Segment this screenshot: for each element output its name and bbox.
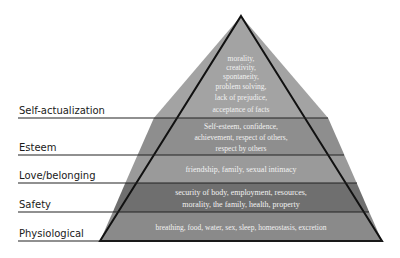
svg-text:lack of prejudice,: lack of prejudice, — [215, 93, 267, 102]
svg-text:acceptance of facts: acceptance of facts — [212, 105, 269, 114]
svg-text:Self-esteem, confidence,: Self-esteem, confidence, — [204, 122, 278, 131]
svg-text:respect by others: respect by others — [216, 144, 267, 153]
label-safety: Safety — [19, 199, 51, 210]
svg-text:spontaneity,: spontaneity, — [223, 72, 259, 81]
maslow-pyramid: Self-actualization Esteem Love/belonging… — [0, 0, 400, 258]
svg-text:problem solving,: problem solving, — [216, 82, 267, 91]
svg-text:morality, the family, health,: morality, the family, health, property — [182, 200, 299, 209]
label-self-actualization: Self-actualization — [19, 105, 105, 116]
svg-text:breathing, food, water, sex, s: breathing, food, water, sex, sleep, home… — [156, 223, 327, 232]
label-physiological: Physiological — [19, 228, 84, 239]
svg-text:friendship, family, sexual int: friendship, family, sexual intimacy — [185, 165, 296, 174]
label-love-belonging: Love/belonging — [19, 170, 96, 181]
svg-text:creativity,: creativity, — [226, 63, 256, 72]
label-esteem: Esteem — [19, 142, 57, 153]
svg-text:security of body, employment,: security of body, employment, resources, — [175, 188, 307, 197]
svg-text:achievement, respect of others: achievement, respect of others, — [194, 133, 287, 142]
text-love-belonging: friendship, family, sexual intimacy — [185, 165, 296, 174]
svg-text:morality,: morality, — [228, 54, 255, 63]
text-physiological: breathing, food, water, sex, sleep, home… — [156, 223, 327, 232]
